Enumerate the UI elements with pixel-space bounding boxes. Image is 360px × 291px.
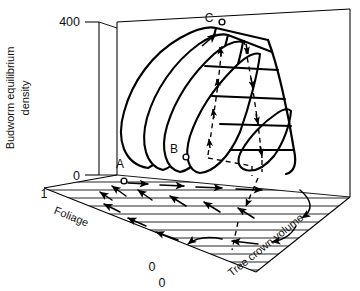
depth-axis-title: Foliage bbox=[52, 204, 90, 228]
arrow-up-left-2 bbox=[112, 186, 126, 196]
arrow-up-left-1 bbox=[100, 192, 112, 200]
base-back-edge bbox=[117, 175, 350, 197]
up-arrow-3 bbox=[217, 79, 218, 88]
arrow-left-2 bbox=[188, 238, 222, 244]
vertical-axis-title: Budworm equilibrium density bbox=[4, 47, 31, 150]
arrow-up-left-3 bbox=[138, 190, 152, 200]
arrow-left-5 bbox=[104, 204, 120, 212]
horizontal-axis-title: Tree crown volume bbox=[225, 211, 305, 278]
ytick-label-max: 400 bbox=[59, 15, 80, 29]
point-marker-B bbox=[183, 154, 189, 160]
arrow-left-1 bbox=[232, 241, 258, 244]
arrow-up-left-5 bbox=[204, 202, 220, 212]
figure-container: A B C 400 0 1 0 0 Budworm equilibrium de… bbox=[0, 0, 360, 291]
depth-axis-title-text: Foliage bbox=[52, 204, 90, 228]
xtick-label-origin: 0 bbox=[159, 276, 166, 290]
horizontal-axis-title-text: Tree crown volume bbox=[225, 211, 305, 278]
ytick-label-min: 0 bbox=[73, 169, 80, 183]
down-arrow-3 bbox=[256, 114, 258, 124]
arrow-right-4 bbox=[236, 189, 262, 190]
point-label-C: C bbox=[205, 11, 214, 25]
foliage-tick-far: 0 bbox=[149, 260, 156, 274]
up-arrow-2 bbox=[213, 109, 214, 118]
budworm-manifold-plot: A B C 400 0 1 0 0 Budworm equilibrium de… bbox=[0, 0, 360, 291]
base-left-edge bbox=[44, 175, 117, 188]
arrow-right-1 bbox=[128, 183, 148, 184]
point-label-A: A bbox=[116, 157, 124, 171]
point-marker-A bbox=[121, 178, 127, 184]
tick-400-leader bbox=[99, 22, 117, 28]
up-arrow-4 bbox=[220, 47, 221, 56]
manifold-cusp-tongue bbox=[239, 109, 291, 170]
up-arrow-1 bbox=[209, 139, 210, 148]
arrow-up-left-4 bbox=[170, 196, 186, 206]
arrow-up-left-6 bbox=[238, 208, 254, 218]
point-marker-C bbox=[219, 19, 225, 25]
collapse-arrow bbox=[246, 178, 258, 206]
base-plane-hatching bbox=[30, 182, 360, 270]
arrow-right-2 bbox=[160, 185, 184, 186]
vertical-axis-title-line2: density bbox=[19, 80, 31, 115]
foliage-tick-near: 1 bbox=[41, 187, 48, 201]
vertical-axis-title-line1: Budworm equilibrium bbox=[4, 47, 16, 150]
arrow-right-3 bbox=[196, 187, 222, 188]
vertical-axis bbox=[85, 22, 117, 175]
point-label-B: B bbox=[170, 142, 178, 156]
back-wall-top-edge bbox=[117, 9, 350, 22]
arrow-left-3 bbox=[156, 232, 178, 240]
